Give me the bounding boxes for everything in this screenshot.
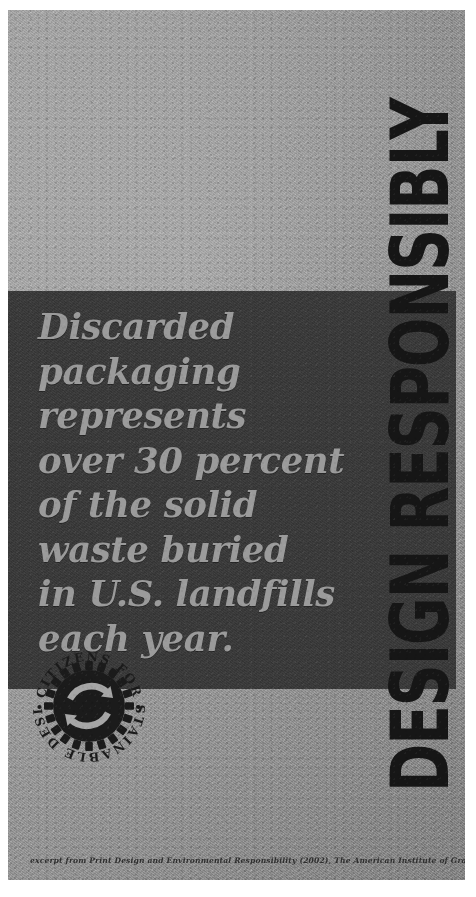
poster-root: Discarded packaging represents over 30 p…	[0, 0, 476, 897]
headline-statement: Discarded packaging represents over 30 p…	[38, 305, 438, 661]
seal-bullet-right	[136, 705, 140, 709]
source-credit: excerpt from Print Design and Environmen…	[30, 856, 450, 866]
poster-sheet: Discarded packaging represents over 30 p…	[8, 10, 465, 880]
quote-band: Discarded packaging represents over 30 p…	[8, 291, 456, 689]
citizens-for-sustainable-design-seal: CITIZENS FOR SUSTAINABLE DESIGN	[30, 647, 148, 765]
seal-bullet-left	[37, 705, 41, 709]
